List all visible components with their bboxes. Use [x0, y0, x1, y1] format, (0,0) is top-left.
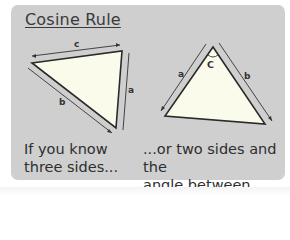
- right-caption-line1: ...or two sides and the: [143, 140, 290, 176]
- label-b: b: [59, 97, 66, 107]
- label-a: a: [128, 85, 134, 95]
- left-caption: If you know three sides...: [24, 140, 134, 176]
- left-caption-line2: three sides...: [24, 158, 134, 176]
- left-triangle-diagram: c a b: [28, 39, 134, 133]
- left-triangle: [32, 51, 122, 128]
- label-a-right: a: [178, 69, 184, 79]
- label-angle-c: C: [207, 59, 214, 70]
- label-c: c: [74, 39, 79, 49]
- label-b-right: b: [244, 71, 251, 81]
- right-triangle-diagram: C a b: [161, 43, 272, 124]
- bottom-fade: [0, 187, 290, 196]
- left-caption-line1: If you know: [24, 140, 134, 158]
- right-triangle: [165, 47, 265, 124]
